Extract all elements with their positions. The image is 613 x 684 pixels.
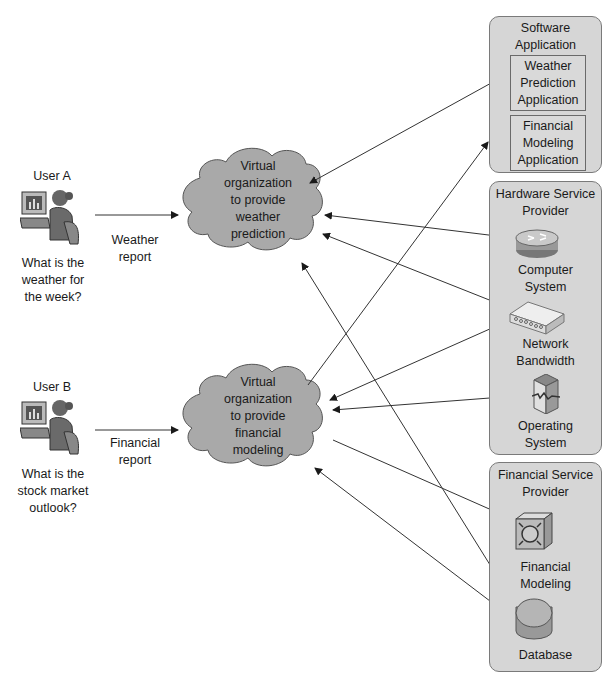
weather-virtual-org-label: Virtual organization to provide weather … [206, 158, 310, 243]
user-a-avatar-icon [20, 188, 84, 246]
computer-system-label: Computer System [490, 262, 601, 296]
financial-provider-title: Financial Service Provider [490, 467, 601, 501]
processor-icon [514, 511, 554, 555]
weather-prediction-app: Weather Prediction Application [510, 55, 586, 111]
financial-modeling-app: Financial Modeling Application [510, 115, 586, 171]
server-icon [532, 374, 560, 418]
router-icon [514, 226, 560, 264]
switch-icon [508, 300, 566, 340]
financial-report-label: Financial report [100, 435, 170, 469]
financial-provider-panel: Financial Service Provider Financial Mod… [489, 462, 602, 672]
user-a-label: User A [22, 168, 82, 185]
user-b-avatar-icon [20, 398, 84, 456]
financial-modeling-label: Financial Modeling [490, 559, 601, 593]
hardware-provider-title: Hardware Service Provider [490, 186, 601, 220]
database-label: Database [490, 647, 601, 664]
financial-virtual-org-label: Virtual organization to provide financia… [206, 374, 310, 459]
weather-report-label: Weather report [100, 232, 170, 266]
user-b-question: What is the stock market outlook? [0, 466, 106, 517]
hardware-provider-panel: Hardware Service Provider Computer Syste… [489, 181, 602, 455]
user-b-label: User B [22, 379, 82, 396]
database-icon [514, 597, 554, 645]
software-provider-panel: Software Application Provider Weather Pr… [489, 16, 602, 173]
network-bandwidth-label: Network Bandwidth [490, 336, 601, 370]
operating-system-label: Operating System [490, 418, 601, 452]
user-a-question: What is the weather for the week? [0, 255, 106, 306]
